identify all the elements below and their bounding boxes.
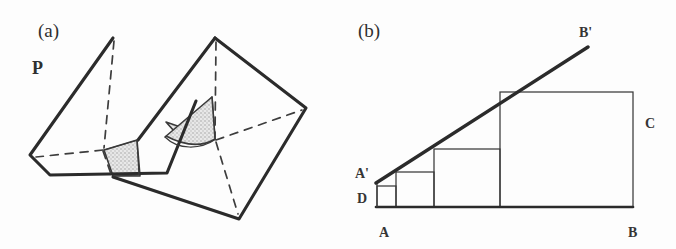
panel-b-label: (b) [358,20,380,42]
label-B: B [628,225,637,240]
figure-canvas: (a) P (b) [0,0,676,249]
label-A-prime: A' [355,166,369,181]
canvas-background [0,0,676,249]
label-C: C [645,116,655,131]
label-B-prime: B' [579,25,592,40]
panel-a-label: (a) [38,20,59,42]
plane-p-label: P [32,58,43,78]
label-D: D [357,191,367,206]
figure-root: (a) P (b) [0,0,676,249]
label-A: A [379,225,390,240]
